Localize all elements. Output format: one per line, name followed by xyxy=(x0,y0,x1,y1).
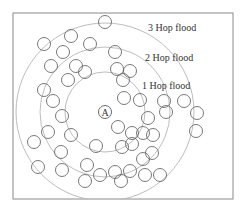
network-node xyxy=(139,169,152,182)
network-node xyxy=(56,164,69,177)
network-nodes xyxy=(28,16,204,188)
network-node xyxy=(79,66,92,79)
network-node xyxy=(38,38,51,51)
network-node xyxy=(84,38,97,51)
network-node xyxy=(147,129,160,142)
network-node xyxy=(55,146,68,159)
network-node xyxy=(134,94,147,107)
network-node xyxy=(191,107,204,120)
flood-ring-label-1-hop: 1 Hop flood xyxy=(142,80,190,91)
flood-ring-label-2-hop: 2 Hop flood xyxy=(145,52,193,63)
network-node xyxy=(190,125,203,138)
network-node xyxy=(38,84,51,97)
source-node-a: A xyxy=(99,106,112,119)
network-node xyxy=(112,121,125,134)
network-node xyxy=(56,110,69,123)
network-node xyxy=(146,147,159,160)
network-node xyxy=(32,161,45,174)
diagram-canvas: A 1 Hop flood2 Hop flood3 Hop flood xyxy=(0,0,246,216)
network-node xyxy=(118,92,131,105)
network-node xyxy=(158,95,171,108)
network-node xyxy=(47,95,60,108)
flood-ring-label-3-hop: 3 Hop flood xyxy=(148,22,196,33)
network-node xyxy=(142,112,155,125)
network-node xyxy=(115,175,128,188)
network-node xyxy=(65,129,78,142)
network-node xyxy=(154,169,167,182)
network-node xyxy=(62,74,75,87)
network-node xyxy=(94,169,107,182)
network-node xyxy=(99,16,112,29)
network-node xyxy=(90,140,103,153)
network-node xyxy=(109,46,122,59)
network-node xyxy=(79,175,92,188)
hop-flood-diagram: A 1 Hop flood2 Hop flood3 Hop flood xyxy=(0,0,246,216)
network-node xyxy=(65,30,78,43)
network-node xyxy=(42,126,55,139)
network-node xyxy=(124,165,137,178)
network-node xyxy=(81,159,94,172)
source-node-label: A xyxy=(101,107,109,118)
network-node xyxy=(126,138,139,151)
network-node xyxy=(45,60,58,73)
flood-ring-labels: 1 Hop flood2 Hop flood3 Hop flood xyxy=(142,22,196,91)
network-node xyxy=(28,136,41,149)
network-node xyxy=(117,74,130,87)
network-node xyxy=(178,95,191,108)
network-node xyxy=(57,46,70,59)
